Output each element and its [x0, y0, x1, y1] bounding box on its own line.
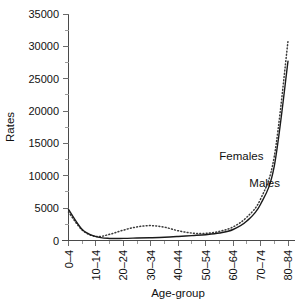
- x-tick-label-50-54: 50–54: [200, 250, 212, 281]
- y-tick-label-15000: 15000: [28, 137, 59, 149]
- y-tick-label-30000: 30000: [28, 40, 59, 52]
- y-axis-ticks: [63, 14, 69, 241]
- y-tick-label-5000: 5000: [35, 202, 59, 214]
- x-tick-label-40-44: 40–44: [172, 250, 184, 281]
- y-tick-label-20000: 20000: [28, 105, 59, 117]
- rates-by-age-group-line-chart: 05000100001500020000250003000035000 Rate…: [0, 0, 302, 305]
- x-tick-label-70-74: 70–74: [255, 250, 267, 281]
- series-label-females: Females: [219, 150, 263, 162]
- x-axis-title: Age-group: [151, 287, 205, 299]
- series-line-females: [69, 41, 289, 236]
- x-tick-label-10-14: 10–14: [90, 250, 102, 281]
- x-tick-label-0-4: 0–4: [63, 250, 75, 268]
- x-axis-group: 0–410–1420–2430–3440–4450–5460–6470–7480…: [62, 241, 295, 300]
- x-tick-label-20-24: 20–24: [117, 250, 129, 281]
- x-tick-label-80-84: 80–84: [282, 250, 294, 281]
- y-tick-label-25000: 25000: [28, 73, 59, 85]
- series-group: [69, 41, 289, 238]
- x-axis-tick-labels: 0–410–1420–2430–3440–4450–5460–6470–7480…: [63, 250, 295, 281]
- y-tick-label-0: 0: [53, 235, 59, 247]
- y-axis-title: Rates: [4, 112, 16, 142]
- x-axis-ticks: [69, 241, 289, 247]
- x-tick-label-30-34: 30–34: [145, 250, 157, 281]
- y-axis-tick-labels: 05000100001500020000250003000035000: [28, 8, 59, 247]
- y-tick-label-10000: 10000: [28, 170, 59, 182]
- chart-container: 05000100001500020000250003000035000 Rate…: [0, 0, 302, 305]
- y-axis-group: 05000100001500020000250003000035000 Rate…: [4, 8, 69, 247]
- series-label-males: Males: [249, 177, 280, 189]
- y-tick-label-35000: 35000: [28, 8, 59, 20]
- x-tick-label-60-64: 60–64: [227, 250, 239, 281]
